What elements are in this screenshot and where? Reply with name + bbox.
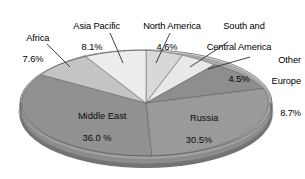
slice-label-other-europe: Other Europe 8.7%	[249, 44, 301, 139]
slice-label-africa: Africa 7.6%	[10, 22, 56, 86]
slice-label-other-europe-name-line1: Other	[278, 55, 301, 65]
slice-label-other-europe-value: 8.7%	[249, 108, 301, 119]
slice-label-asia-pacific-name: Asia Pacific	[73, 21, 120, 31]
slice-label-north-america-name: North America	[143, 21, 201, 31]
slice-label-other-europe-name-line2: Europe	[249, 76, 301, 87]
slice-label-north-america-value: 4.6%	[128, 42, 206, 53]
slice-label-russia: Russia 30.5%	[168, 102, 230, 168]
slice-label-asia-pacific: Asia Pacific 8.1%	[57, 10, 127, 74]
slice-label-africa-name: Africa	[26, 33, 49, 43]
slice-label-russia-name: Russia	[190, 113, 218, 123]
pie-chart-figure: Africa 7.6% Asia Pacific 8.1% North Amer…	[0, 0, 305, 179]
slice-label-asia-pacific-value: 8.1%	[57, 42, 127, 53]
slice-label-middle-east-value: 36.0 %	[54, 133, 140, 144]
slice-label-africa-value: 7.6%	[10, 54, 56, 65]
slice-label-russia-value: 30.5%	[168, 135, 230, 146]
slice-label-middle-east-name: Middle East	[78, 111, 127, 121]
slice-label-middle-east: Middle East 36.0 %	[54, 100, 140, 166]
slice-label-north-america: North America 4.6%	[128, 10, 206, 74]
slice-label-south-central-america-name-line1: South and	[223, 21, 265, 31]
